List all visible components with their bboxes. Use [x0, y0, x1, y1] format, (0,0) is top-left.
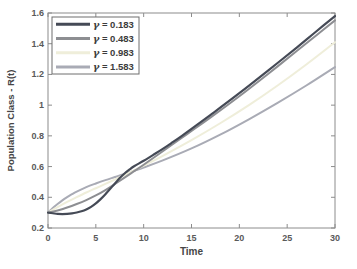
- x-tick-label: 5: [93, 233, 98, 243]
- legend-label: γ = 1.583: [93, 61, 134, 72]
- matlab-figure: 0510152025300.20.40.60.811.21.41.6TimePo…: [0, 0, 357, 269]
- legend-label: γ = 0.183: [93, 19, 134, 30]
- x-tick-label: 20: [234, 233, 244, 243]
- line-chart-svg: 0510152025300.20.40.60.811.21.41.6TimePo…: [0, 0, 357, 269]
- x-tick-label: 10: [139, 233, 149, 243]
- y-tick-label: 1: [39, 100, 44, 110]
- x-tick-label: 15: [186, 233, 196, 243]
- legend-label: γ = 0.983: [93, 47, 134, 58]
- y-tick-label: 0.6: [31, 162, 44, 172]
- y-tick-label: 0.4: [31, 192, 44, 202]
- y-tick-label: 1.2: [31, 69, 44, 79]
- x-tick-label: 0: [45, 233, 50, 243]
- y-tick-label: 1.4: [31, 39, 44, 49]
- x-tick-label: 30: [330, 233, 340, 243]
- y-tick-label: 0.8: [31, 131, 44, 141]
- y-tick-label: 1.6: [31, 8, 44, 18]
- y-axis-label: Population Class - R(t): [5, 70, 16, 172]
- x-axis-label: Time: [180, 246, 204, 257]
- legend-label: γ = 0.483: [93, 33, 134, 44]
- x-tick-label: 25: [282, 233, 292, 243]
- y-tick-label: 0.2: [31, 223, 44, 233]
